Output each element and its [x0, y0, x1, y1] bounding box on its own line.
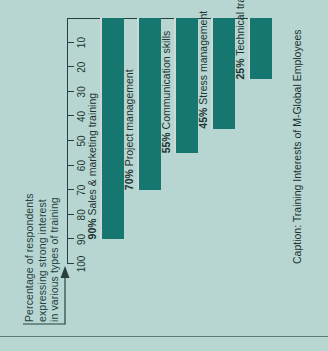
bar-label: 55% Communication skills — [160, 31, 172, 154]
axis-tick-90 — [67, 238, 74, 239]
axis-pointer-arrow-icon — [21, 262, 79, 326]
bar-category-name: Technical training — [234, 0, 246, 58]
bar-group: 90% Sales & marketing training70% Projec… — [89, 18, 275, 264]
bar-technical-training[interactable] — [248, 18, 272, 80]
bar-category-name: Stress management — [197, 11, 209, 108]
bar-communication-skills[interactable] — [174, 18, 198, 153]
figure-caption: Caption: Training Interests of M-Global … — [291, 29, 303, 264]
bar-row: 25% Technical training — [248, 18, 272, 264]
bar-project-management[interactable] — [137, 18, 161, 190]
axis-tick-70 — [67, 189, 74, 190]
page-divider-rule — [0, 336, 328, 337]
bar-label: 25% Technical training — [234, 0, 246, 80]
bar-row: 90% Sales & marketing training — [100, 18, 124, 264]
axis-tick-label-20: 20 — [76, 62, 87, 73]
value-axis-line — [67, 18, 68, 264]
axis-tick-80 — [67, 214, 74, 215]
figure-page: Percentage of respondents expressing str… — [0, 0, 328, 351]
axis-tick-30 — [67, 91, 74, 92]
axis-tick-10 — [67, 42, 74, 43]
bar-row: 55% Communication skills — [174, 18, 198, 264]
bar-label: 45% Stress management — [197, 11, 209, 129]
axis-tick-label-10: 10 — [76, 37, 87, 48]
bar-category-name: Sales & marketing training — [86, 93, 98, 218]
axis-tick-40 — [67, 115, 74, 116]
bar-stress-management[interactable] — [211, 18, 235, 129]
bar-value-percent: 25% — [234, 58, 246, 79]
axis-tick-50 — [67, 140, 74, 141]
bar-category-name: Project management — [123, 69, 135, 169]
bar-sales-marketing-training[interactable] — [100, 18, 124, 239]
bar-value-percent: 70% — [123, 169, 135, 190]
bar-value-percent: 90% — [86, 218, 98, 239]
bar-label: 70% Project management — [123, 69, 135, 190]
bar-row: 70% Project management — [137, 18, 161, 264]
bar-label: 90% Sales & marketing training — [86, 93, 98, 240]
axis-tick-100 — [67, 263, 74, 264]
bar-row: 45% Stress management — [211, 18, 235, 264]
axis-tick-label-100: 100 — [76, 256, 87, 273]
rotated-chart-stage: Percentage of respondents expressing str… — [5, 0, 323, 328]
axis-tick-20 — [67, 66, 74, 67]
axis-tick-60 — [67, 165, 74, 166]
bar-value-percent: 55% — [160, 132, 172, 153]
plot-area: 100908070605040302010 90% Sales & market… — [67, 18, 275, 264]
bar-value-percent: 45% — [197, 108, 209, 129]
bar-category-name: Communication skills — [160, 31, 172, 133]
